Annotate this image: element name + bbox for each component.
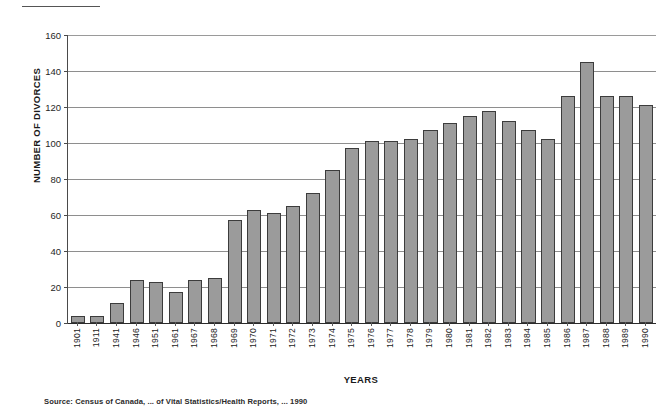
x-label-slot: 1985 — [537, 326, 557, 372]
bar — [130, 280, 144, 323]
bar — [267, 213, 281, 323]
x-tick-label: 1974 — [327, 328, 337, 348]
x-tick-label: 1969 — [229, 328, 239, 348]
x-tick-mark — [410, 322, 411, 326]
x-label-slot: 1974 — [322, 326, 342, 372]
x-tick-label: 1987 — [581, 328, 591, 348]
x-tick-label: 1981 — [464, 328, 474, 348]
x-label-slot: 1983 — [498, 326, 518, 372]
x-tick-mark — [116, 322, 117, 326]
bar-slot — [146, 35, 166, 323]
x-label-slot: 1972 — [283, 326, 303, 372]
x-tick-label: 1988 — [601, 328, 611, 348]
bar — [423, 130, 437, 323]
x-label-slot: 1969 — [224, 326, 244, 372]
bar-slot — [68, 35, 88, 323]
x-tick-mark — [586, 322, 587, 326]
x-tick-label: 1982 — [483, 328, 493, 348]
bar-slot — [303, 35, 323, 323]
x-label-slot: 1979 — [420, 326, 440, 372]
y-tick-label: 40 — [50, 246, 61, 257]
y-tick-label: 100 — [45, 138, 61, 149]
x-tick-label: 1973 — [307, 328, 317, 348]
bar-slot — [479, 35, 499, 323]
x-tick-label: 1951 — [150, 328, 160, 348]
x-label-slot: 1911 — [87, 326, 107, 372]
x-tick-mark — [292, 322, 293, 326]
x-tick-label: 1990 — [640, 328, 650, 348]
x-tick-label: 1983 — [503, 328, 513, 348]
x-label-slot: 1961 — [165, 326, 185, 372]
bar-slot — [558, 35, 578, 323]
bar — [306, 193, 320, 323]
x-axis-title: YEARS — [67, 374, 655, 385]
bar — [247, 210, 261, 323]
x-tick-mark — [96, 322, 97, 326]
bar-slot — [421, 35, 441, 323]
x-tick-label: 1989 — [620, 328, 630, 348]
x-label-slot: 1975 — [341, 326, 361, 372]
y-tick-mark — [64, 323, 68, 324]
x-label-slot: 1973 — [302, 326, 322, 372]
bar-slot — [401, 35, 421, 323]
bar — [541, 139, 555, 323]
x-tick-mark — [527, 322, 528, 326]
bar-slot — [460, 35, 480, 323]
bar-slot — [284, 35, 304, 323]
source-note: Source: Census of Canada, ... of Vital S… — [44, 397, 644, 406]
x-tick-mark — [136, 322, 137, 326]
bar — [149, 282, 163, 323]
x-tick-mark — [332, 322, 333, 326]
x-label-slot: 1901 — [67, 326, 87, 372]
bar — [286, 206, 300, 323]
chart-figure: NUMBER OF DIVORCES 160140120100806040200… — [0, 0, 662, 406]
x-tick-label: 1984 — [522, 328, 532, 348]
x-tick-label: 1911 — [91, 328, 101, 347]
bar — [169, 292, 183, 323]
bar — [482, 111, 496, 323]
x-tick-mark — [429, 322, 430, 326]
x-label-slot: 1987 — [576, 326, 596, 372]
x-tick-mark — [175, 322, 176, 326]
x-tick-mark — [194, 322, 195, 326]
x-label-slot: 1968 — [204, 326, 224, 372]
bar-slot — [519, 35, 539, 323]
x-label-slot: 1986 — [557, 326, 577, 372]
x-tick-mark — [508, 322, 509, 326]
x-tick-mark — [606, 322, 607, 326]
x-label-slot: 1981 — [459, 326, 479, 372]
bar — [345, 148, 359, 323]
x-tick-label: 1972 — [287, 328, 297, 348]
x-tick-mark — [234, 322, 235, 326]
x-tick-label: 1985 — [542, 328, 552, 348]
y-tick-label: 0 — [56, 318, 61, 329]
bar — [502, 121, 516, 323]
bar — [619, 96, 633, 323]
y-tick-label: 160 — [45, 30, 61, 41]
x-tick-mark — [312, 322, 313, 326]
x-label-slot: 1984 — [518, 326, 538, 372]
bar — [365, 141, 379, 323]
x-tick-label: 1970 — [248, 328, 258, 348]
y-tick-label: 60 — [50, 210, 61, 221]
plot-area: 160140120100806040200 — [67, 35, 656, 324]
bar — [580, 62, 594, 323]
x-label-slot: 1980 — [439, 326, 459, 372]
x-tick-mark — [273, 322, 274, 326]
bar-slot — [597, 35, 617, 323]
bar-slot — [225, 35, 245, 323]
bar-slot — [499, 35, 519, 323]
bar — [325, 170, 339, 323]
x-tick-mark — [371, 322, 372, 326]
x-label-slot: 1976 — [361, 326, 381, 372]
x-tick-label: 1941 — [111, 328, 121, 348]
bar — [384, 141, 398, 323]
bar-slot — [127, 35, 147, 323]
x-tick-mark — [488, 322, 489, 326]
bar — [561, 96, 575, 323]
bar — [90, 316, 104, 323]
x-tick-mark — [77, 322, 78, 326]
bar-slot — [636, 35, 656, 323]
x-tick-label: 1979 — [424, 328, 434, 348]
bar-slot — [186, 35, 206, 323]
